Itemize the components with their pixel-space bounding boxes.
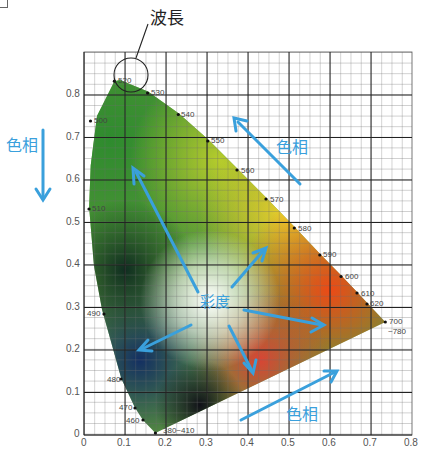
x-tick: 0.1 xyxy=(117,437,131,448)
grid xyxy=(84,52,412,435)
x-tick: 0 xyxy=(81,437,87,448)
x-tick: 0.7 xyxy=(363,437,377,448)
wl-label-540: 540 xyxy=(181,110,194,119)
x-tick: 0.4 xyxy=(240,437,254,448)
wl-label-780: ~780 xyxy=(388,327,406,336)
x-tick: 0.3 xyxy=(199,437,213,448)
wl-label-470: 470 xyxy=(119,403,132,412)
wl-label-500: 500 xyxy=(94,116,107,125)
wl-label-600: 600 xyxy=(345,272,358,281)
wl-label-520: 520 xyxy=(118,76,131,85)
x-tick: 0.2 xyxy=(158,437,172,448)
wl-label-620: 620 xyxy=(370,299,383,308)
wl-label-570: 570 xyxy=(270,195,283,204)
wl-label-610: 610 xyxy=(361,289,374,298)
wl-label-580: 580 xyxy=(298,224,311,233)
x-tick: 0.6 xyxy=(322,437,336,448)
y-tick: 0.3 xyxy=(66,301,80,312)
chromaticity-diagram: 波長 色相 色相 色相 彩度 520 530 540 550 560 570 5… xyxy=(0,0,427,456)
y-tick: 0.4 xyxy=(66,258,80,269)
wl-label-590: 590 xyxy=(323,250,336,259)
wl-label-700: 700 xyxy=(389,317,402,326)
hue-label-bottom: 色相 xyxy=(286,401,318,425)
wl-label-480: 480 xyxy=(107,375,120,384)
x-tick: 0.8 xyxy=(404,437,418,448)
wl-label-510: 510 xyxy=(92,204,105,213)
corner-bracket xyxy=(0,0,8,8)
y-tick: 0.1 xyxy=(66,386,80,397)
diagram-svg xyxy=(0,0,427,456)
y-tick: 0.7 xyxy=(66,131,80,142)
wl-label-550: 550 xyxy=(211,136,224,145)
wl-label-490: 490 xyxy=(87,309,100,318)
x-tick: 0.5 xyxy=(281,437,295,448)
y-tick: 0.8 xyxy=(66,88,80,99)
hue-label-top: 色相 xyxy=(276,134,308,158)
y-tick: 0.6 xyxy=(66,173,80,184)
y-tick: 0.5 xyxy=(66,216,80,227)
wl-label-530: 530 xyxy=(151,88,164,97)
y-tick: 0 xyxy=(74,428,80,439)
y-tick: 0.2 xyxy=(66,343,80,354)
wl-label-560: 560 xyxy=(241,166,254,175)
hue-label-left: 色相 xyxy=(6,132,38,156)
saturation-label: 彩度 xyxy=(200,290,230,311)
wl-label-380: 380~410 xyxy=(163,426,194,435)
wavelength-label: 波長 xyxy=(150,4,184,29)
wl-label-460: 460 xyxy=(126,416,139,425)
